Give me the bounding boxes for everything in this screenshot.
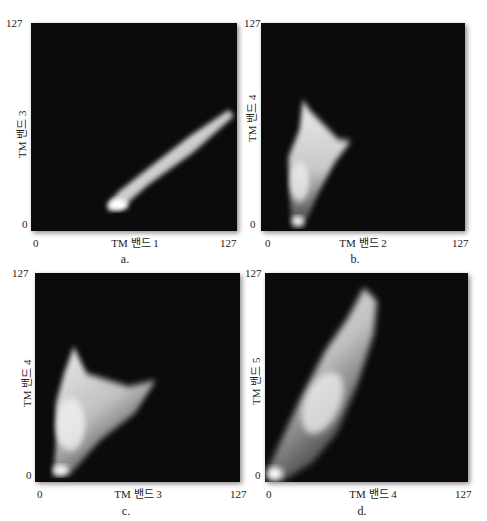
x-tick-max: 127 <box>220 238 237 249</box>
x-tick-min: 0 <box>265 238 271 249</box>
panel-caption: c. <box>116 505 136 517</box>
y-tick-max: 127 <box>12 268 29 279</box>
density-cloud-c <box>35 273 240 482</box>
x-axis-label: TM 밴드 3 <box>103 488 173 500</box>
scatter-plot-a <box>31 23 237 231</box>
x-tick-max: 127 <box>452 238 469 249</box>
x-tick-max: 127 <box>230 489 247 500</box>
density-cloud-b <box>261 23 465 231</box>
panel-caption: d. <box>352 505 372 517</box>
y-tick-min: 0 <box>250 219 256 230</box>
panel-caption: a. <box>115 253 135 265</box>
x-tick-min: 0 <box>266 489 272 500</box>
y-tick-min: 0 <box>22 219 28 230</box>
x-axis-label: TM 밴드 1 <box>100 237 170 249</box>
y-axis-label: TM 밴드 5 <box>250 358 262 406</box>
x-tick-min: 0 <box>33 238 39 249</box>
density-cloud-d <box>265 273 468 482</box>
y-tick-min: 0 <box>26 470 32 481</box>
x-tick-max: 127 <box>455 489 472 500</box>
y-axis-label: TM 밴드 4 <box>246 95 258 143</box>
scatter-plot-b <box>261 23 465 231</box>
x-tick-min: 0 <box>37 489 43 500</box>
y-axis-label: TM 밴드 3 <box>16 111 28 159</box>
scatter-plot-d <box>265 273 468 482</box>
y-tick-min: 0 <box>255 470 261 481</box>
y-tick-max: 127 <box>6 18 23 29</box>
scatter-plot-c <box>35 273 240 482</box>
density-cloud-a <box>31 23 237 231</box>
panel-caption: b. <box>345 253 365 265</box>
x-axis-label: TM 밴드 4 <box>338 488 408 500</box>
y-tick-max: 127 <box>244 18 261 29</box>
y-tick-max: 127 <box>245 268 262 279</box>
x-axis-label: TM 밴드 2 <box>328 237 398 249</box>
y-axis-label: TM 밴드 4 <box>21 360 33 408</box>
